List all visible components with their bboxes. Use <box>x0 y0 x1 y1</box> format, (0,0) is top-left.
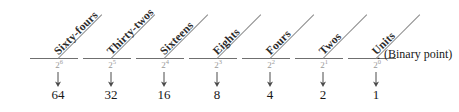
place-baseline <box>295 58 343 59</box>
power-of-two-label: 20 <box>365 61 389 70</box>
place-baseline <box>83 58 131 59</box>
place-label: Sixty-fours <box>52 9 100 57</box>
binary-place-value-diagram: Sixty-fours2664Thirty-twos2532Sixteens24… <box>0 0 459 112</box>
place-label: Eights <box>211 26 242 57</box>
place-label: Twos <box>317 30 344 57</box>
power-exponent: 6 <box>60 58 63 65</box>
power-exponent: 3 <box>219 58 222 65</box>
place-baseline <box>242 58 290 59</box>
power-of-two-label: 26 <box>47 61 71 70</box>
place-label: Thirty-twos <box>105 6 156 57</box>
binary-point-caption: (Binary point) <box>384 48 452 60</box>
power-of-two-label: 23 <box>206 61 230 70</box>
place-value-number: 2 <box>305 88 341 101</box>
power-exponent: 5 <box>113 58 116 65</box>
down-arrow-icon <box>158 72 170 88</box>
place-baseline <box>30 58 78 59</box>
place-baseline <box>189 58 237 59</box>
place-value-number: 64 <box>40 88 76 101</box>
place-value-number: 1 <box>358 88 394 101</box>
power-of-two-label: 24 <box>153 61 177 70</box>
power-of-two-label: 25 <box>100 61 124 70</box>
down-arrow-icon <box>317 72 329 88</box>
down-arrow-icon <box>370 72 382 88</box>
power-of-two-label: 22 <box>259 61 283 70</box>
power-exponent: 2 <box>272 58 275 65</box>
place-value-number: 16 <box>146 88 182 101</box>
down-arrow-icon <box>264 72 276 88</box>
power-exponent: 1 <box>325 58 328 65</box>
place-label: Sixteens <box>158 19 196 57</box>
place-label: Fours <box>264 27 294 57</box>
down-arrow-icon <box>105 72 117 88</box>
down-arrow-icon <box>52 72 64 88</box>
place-value-number: 4 <box>252 88 288 101</box>
place-value-number: 8 <box>199 88 235 101</box>
power-exponent: 4 <box>166 58 169 65</box>
place-baseline <box>136 58 184 59</box>
power-of-two-label: 21 <box>312 61 336 70</box>
down-arrow-icon <box>211 72 223 88</box>
binary-point-dot: . <box>377 48 380 61</box>
place-value-number: 32 <box>93 88 129 101</box>
